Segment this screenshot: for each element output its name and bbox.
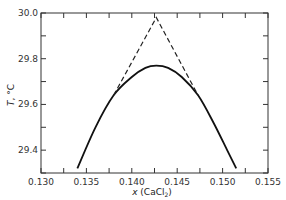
x-tick-label: 0.150 (210, 177, 236, 187)
x-tick-label: 0.140 (119, 177, 145, 187)
y-axis-title: T, °C (6, 84, 16, 106)
x-tick-label: 0.155 (255, 177, 281, 187)
y-tick-label: 29.6 (18, 99, 38, 109)
x-tick-label: 0.145 (164, 177, 190, 187)
plot-frame (41, 13, 268, 173)
plot-border (41, 13, 268, 173)
series-group (77, 18, 236, 169)
y-axis: 29.429.629.830.0 (18, 8, 268, 173)
x-tick-label: 0.130 (28, 177, 54, 187)
y-tick-label: 29.8 (18, 54, 38, 64)
x-axis: 0.1300.1350.1400.1450.1500.155 (28, 13, 281, 187)
x-tick-label: 0.135 (74, 177, 100, 187)
y-tick-label: 29.4 (18, 145, 38, 155)
chart: 0.1300.1350.1400.1450.1500.155 29.429.62… (0, 0, 286, 200)
dashed-tangent-lines (114, 18, 198, 96)
y-tick-label: 30.0 (18, 8, 38, 18)
solid-curve (77, 66, 236, 169)
x-axis-title: x (CaCl2) (131, 187, 172, 198)
